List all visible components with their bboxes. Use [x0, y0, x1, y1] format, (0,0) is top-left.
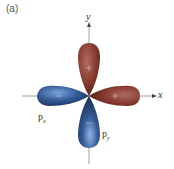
x-axis-arrow-icon — [152, 94, 157, 98]
px-lobe-negative — [37, 86, 89, 106]
y-axis-label: y — [86, 11, 90, 22]
x-axis-label: x — [158, 89, 162, 100]
py-label: py — [102, 128, 110, 141]
py-lobe-negative — [78, 96, 100, 148]
y-axis-arrow-icon — [87, 22, 91, 27]
p-orbital-diagram — [0, 0, 174, 169]
px-label: px — [38, 111, 46, 124]
